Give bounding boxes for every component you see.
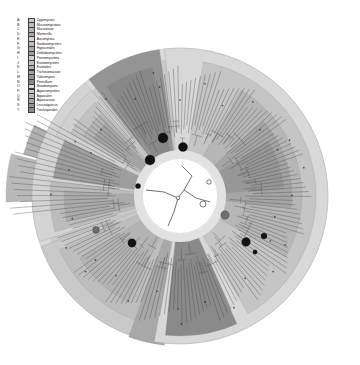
support-node-marker <box>221 211 229 219</box>
tip-dot <box>180 323 182 325</box>
tip-dot <box>50 194 52 196</box>
tip-dot <box>72 218 74 220</box>
tip-dot <box>115 275 117 277</box>
tip-dot <box>270 240 272 242</box>
tip-dot <box>156 290 158 292</box>
tip-dot <box>291 195 293 197</box>
tip-dot <box>204 83 206 85</box>
tip-dot <box>65 247 67 249</box>
legend-taxon-label: Trechisporales <box>37 108 58 113</box>
tip-dot <box>179 99 181 101</box>
support-node-marker <box>158 133 168 143</box>
legend-abbreviation: T: <box>17 108 28 113</box>
tip-dot <box>177 308 179 310</box>
tip-dot <box>277 149 279 151</box>
tip-dot <box>100 129 102 131</box>
tip-dot <box>68 169 70 171</box>
tip-dot <box>289 139 291 141</box>
tip-dot <box>274 216 276 218</box>
support-node-marker <box>200 201 206 207</box>
tip-dot <box>252 101 254 103</box>
tip-dot <box>303 167 305 169</box>
support-node-marker <box>178 142 187 151</box>
tip-dot <box>233 307 235 309</box>
tip-dot <box>85 271 87 273</box>
tip-dot <box>222 105 224 107</box>
tip-dot <box>159 86 161 88</box>
support-node-marker <box>207 180 211 184</box>
tip-dot <box>74 141 76 143</box>
tip-dot <box>153 72 155 74</box>
inner-core-circle <box>143 159 217 233</box>
support-node-marker <box>128 239 136 247</box>
support-node-marker <box>145 155 155 165</box>
tip-dot <box>244 277 246 279</box>
tip-dot <box>204 301 206 303</box>
legend: A:ZygomycotaB:MucoromycotinaC:Mucorineae… <box>17 18 107 113</box>
tip-dot <box>134 98 136 100</box>
tip-dot <box>95 259 97 261</box>
tip-dot <box>259 129 261 131</box>
tip-dot <box>272 271 274 273</box>
support-node-marker <box>242 238 251 247</box>
legend-row: T:Trechisporales <box>17 108 107 113</box>
support-node-marker <box>135 183 140 188</box>
support-node-marker <box>261 233 267 239</box>
tip-dot <box>284 244 286 246</box>
root-node-open <box>176 196 180 200</box>
tip-dot <box>90 152 92 154</box>
tip-dot <box>128 300 130 302</box>
figure-canvas: A:ZygomycotaB:MucoromycotinaC:Mucorineae… <box>0 0 360 365</box>
support-node-marker <box>253 250 257 254</box>
legend-color-swatch <box>28 107 35 113</box>
support-node-marker <box>93 227 100 234</box>
